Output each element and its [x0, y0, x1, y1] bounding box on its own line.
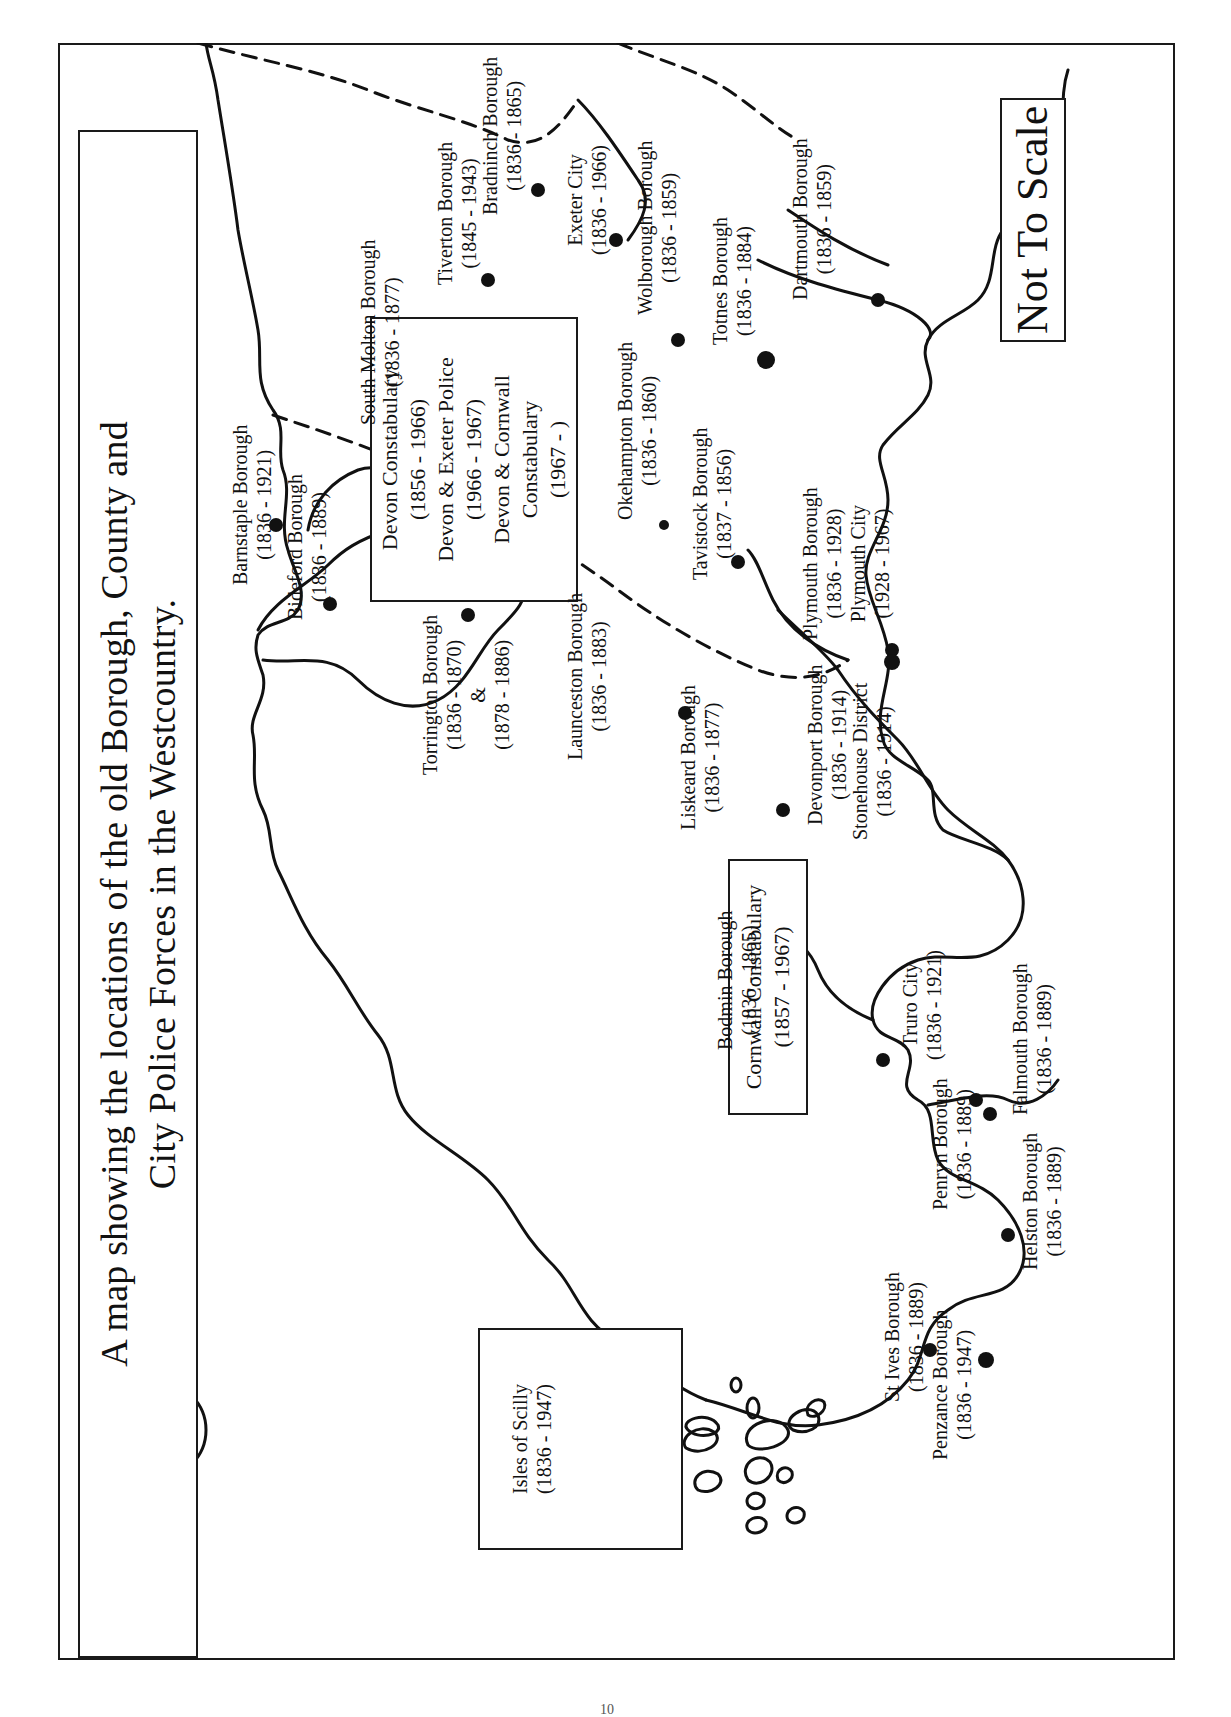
place-label-plymouth: Plymouth Borough(1836 - 1928) Plymouth C… — [798, 487, 894, 640]
scilly-line: (1836 - 1947) — [532, 1384, 556, 1494]
rotated-map-canvas: N A map showing the locations of the old… — [58, 43, 1175, 1660]
page-number: 10 — [600, 1702, 614, 1717]
place-label-bideford: Bideford Borough(1836 - 1889) — [283, 474, 331, 620]
scilly-inset-box: Isles of Scilly (1836 - 1947) — [478, 1328, 683, 1550]
place-label-bradninch: Bradninch Borough(1836 - 1865) — [478, 57, 526, 215]
place-label-falmouth: Falmouth Borough(1836 - 1889) — [1008, 963, 1056, 1115]
place-label-truro: Truro City(1836 - 1921) — [898, 950, 946, 1060]
place-label-devonport: Devonport Borough(1836 - 1914) — [803, 664, 851, 825]
place-label-wolborough: Wolborough Borough(1836 - 1859) — [633, 141, 681, 316]
devon-line: (1966 - 1967) — [460, 399, 488, 520]
place-label-helston: Helston Borough(1836 - 1889) — [1018, 1133, 1066, 1270]
place-label-south-molton: South Molton Borough(1836 - 1877) — [356, 239, 404, 425]
devon-line: (1967 - ) — [544, 421, 572, 498]
devon-line: Constabulary — [516, 401, 544, 518]
place-label-barnstaple: Barnstaple Borough(1836 - 1921) — [228, 424, 276, 585]
place-label-torrington: Torrington Borough(1836 - 1870) &(1878 -… — [418, 615, 514, 775]
place-label-stonehouse: Stonehouse District(1836 - 1914) — [848, 683, 896, 840]
place-label-dartmouth: Dartmouth Borough(1836 - 1859) — [788, 138, 836, 300]
devon-line: Devon & Exeter Police — [432, 357, 460, 562]
place-label-tiverton: Tiverton Borough(1845 - 1943) — [433, 142, 481, 285]
place-label-exeter: Exeter City(1836 - 1966) — [563, 145, 611, 255]
map-title: A map showing the locations of the old B… — [78, 130, 198, 1658]
not-to-scale-label: Not To Scale — [1000, 98, 1066, 342]
place-label-tavistock: Tavistock Borough(1837 - 1856) — [688, 428, 736, 580]
devon-line: Devon & Cornwall — [488, 375, 516, 544]
place-label-penzance: Penzance Borough(1836 - 1947) — [928, 1309, 976, 1460]
devon-line: (1856 - 1966) — [404, 399, 432, 520]
place-label-totnes: Totnes Borough(1836 - 1884) — [708, 217, 756, 345]
place-label-launceston: Launceston Borough(1836 - 1883) — [563, 593, 611, 760]
devon-dorset-boundary — [618, 43, 798, 140]
place-label-st-ives: St Ives Borough(1836 - 1889) — [880, 1272, 928, 1402]
title-line-2: City Police Forces in the Westcountry. — [138, 599, 186, 1189]
place-label-liskeard: Liskeard Borough(1836 - 1877) — [676, 685, 724, 830]
dart-river — [758, 260, 931, 340]
cornwall-line: (1857 - 1967) — [768, 927, 796, 1048]
place-label-okehampton: Okehampton Borough(1836 - 1860) — [613, 342, 661, 520]
scilly-line: Isles of Scilly — [508, 1384, 532, 1494]
place-label-penryn: Penryn Borough(1836 - 1889) — [928, 1078, 976, 1210]
place-label-bodmin: Bodmin Borough(1836 - 1865) — [713, 911, 761, 1050]
title-line-1: A map showing the locations of the old B… — [90, 421, 138, 1367]
